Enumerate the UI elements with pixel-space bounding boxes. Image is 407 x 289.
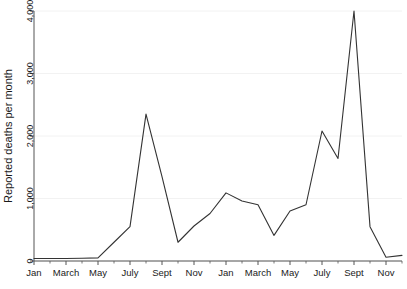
x-axis-tick-label: Jan bbox=[26, 267, 41, 278]
x-axis-tick-label: Nov bbox=[186, 267, 203, 278]
line-chart: 01,0002,0003,0004,000 JanMarchMayJulySep… bbox=[0, 0, 407, 289]
x-axis-tick-label: Nov bbox=[378, 267, 395, 278]
y-axis-tick-label: 1,000 bbox=[25, 187, 35, 210]
x-axis-tick-label: May bbox=[89, 267, 107, 278]
x-axis-tick-label: Sept bbox=[152, 267, 172, 278]
x-axis-tick-label: July bbox=[314, 267, 331, 278]
y-axis-tick-label: 2,000 bbox=[25, 125, 35, 148]
x-axis-tick-label: Jan bbox=[218, 267, 233, 278]
x-axis-tick-label: July bbox=[122, 267, 139, 278]
x-axis-ticks bbox=[34, 261, 402, 265]
y-axis-tick-label: 0 bbox=[25, 258, 35, 263]
data-series-line bbox=[34, 11, 402, 259]
gridlines bbox=[34, 11, 402, 261]
x-axis-tick-label: Sept bbox=[344, 267, 364, 278]
x-axis-tick-labels: JanMarchMayJulySeptNovJanMarchMayJulySep… bbox=[26, 267, 394, 278]
x-axis-tick-label: March bbox=[245, 267, 271, 278]
chart-container: 01,0002,0003,0004,000 JanMarchMayJulySep… bbox=[0, 0, 407, 289]
x-axis-tick-label: May bbox=[281, 267, 299, 278]
y-axis-tick-label: 4,000 bbox=[25, 0, 35, 22]
x-axis-tick-label: March bbox=[53, 267, 79, 278]
y-axis-title: Reported deaths per month bbox=[2, 69, 14, 203]
y-axis-tick-label: 3,000 bbox=[25, 62, 35, 85]
